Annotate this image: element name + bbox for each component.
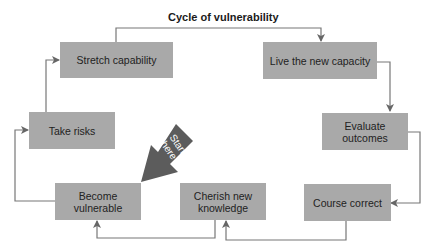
node-label: Live the new capacity xyxy=(270,55,370,67)
edge-stretch-to-live xyxy=(116,28,321,42)
node-become-vulnerable: Become vulnerable xyxy=(55,183,141,220)
node-evaluate-outcomes: Evaluate outcomes xyxy=(322,113,408,150)
node-stretch-capability: Stretch capability xyxy=(60,42,173,78)
edge-live-to-evaluate xyxy=(377,62,390,111)
node-label-line: outcomes xyxy=(342,132,388,144)
edge-cherish-to-become xyxy=(97,220,215,238)
node-label-line: knowledge xyxy=(198,202,248,214)
edge-risks-to-stretch xyxy=(46,60,59,112)
node-label: Take risks xyxy=(49,125,96,137)
node-cherish-new-knowledge: Cherish new knowledge xyxy=(180,183,266,220)
node-label-line: vulnerable xyxy=(74,202,122,214)
node-label: Stretch capability xyxy=(77,54,157,66)
node-label: Course correct xyxy=(313,197,382,209)
node-course-correct: Course correct xyxy=(304,184,391,221)
edge-course-to-cherish xyxy=(226,220,346,240)
node-take-risks: Take risks xyxy=(29,112,115,149)
node-label-line: Cherish new xyxy=(194,190,252,202)
node-label-line: Evaluate xyxy=(345,120,386,132)
node-live-the-new-capacity: Live the new capacity xyxy=(263,42,377,79)
node-label-line: Become xyxy=(79,190,118,202)
diagram-title: Cycle of vulnerability xyxy=(168,11,279,23)
